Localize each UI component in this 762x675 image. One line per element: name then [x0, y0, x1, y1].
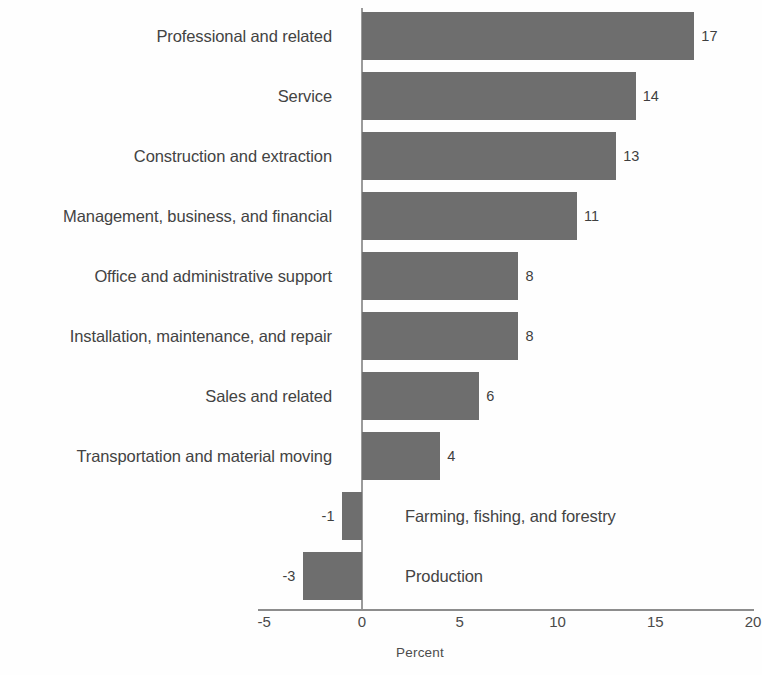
x-axis-tick: -5: [258, 613, 271, 630]
bar-row: Production-3: [0, 546, 762, 606]
category-label: Farming, fishing, and forestry: [405, 486, 616, 546]
bar-value-label: -1: [322, 486, 335, 546]
bar-value-label: 4: [447, 426, 455, 486]
bar-row: Professional and related17: [0, 6, 762, 66]
x-axis-tick: 5: [456, 613, 464, 630]
bar-value-label: 8: [525, 246, 533, 306]
category-label: Professional and related: [156, 6, 332, 66]
x-axis-tick: 20: [745, 613, 762, 630]
x-axis-line: [258, 609, 754, 611]
bar: [342, 492, 362, 540]
bar: [362, 132, 616, 180]
bar: [362, 12, 694, 60]
bar-row: Management, business, and financial11: [0, 186, 762, 246]
category-label: Transportation and material moving: [76, 426, 332, 486]
bar-row: Office and administrative support8: [0, 246, 762, 306]
bar-value-label: 8: [525, 306, 533, 366]
bar-row: Transportation and material moving4: [0, 426, 762, 486]
x-axis-tick: 10: [549, 613, 566, 630]
bar-value-label: 17: [701, 6, 717, 66]
category-label: Installation, maintenance, and repair: [70, 306, 332, 366]
x-axis-tick-labels: -505101520: [0, 613, 762, 643]
bar: [303, 552, 362, 600]
bar: [362, 432, 440, 480]
bar-row: Installation, maintenance, and repair8: [0, 306, 762, 366]
bar-chart: Professional and related17Service14Const…: [0, 0, 762, 675]
category-label: Construction and extraction: [134, 126, 332, 186]
x-axis-tick: 0: [358, 613, 366, 630]
bar-row: Farming, fishing, and forestry-1: [0, 486, 762, 546]
bar: [362, 72, 636, 120]
bar-value-label: -3: [282, 546, 295, 606]
bar-value-label: 14: [643, 66, 659, 126]
plot-area: Professional and related17Service14Const…: [0, 0, 762, 612]
bar-value-label: 11: [584, 186, 599, 246]
bar: [362, 312, 518, 360]
bar: [362, 192, 577, 240]
category-label: Production: [405, 546, 483, 606]
bar-row: Construction and extraction13: [0, 126, 762, 186]
bar-value-label: 6: [486, 366, 494, 426]
category-label: Sales and related: [205, 366, 332, 426]
category-label: Service: [278, 66, 332, 126]
bar-value-label: 13: [623, 126, 639, 186]
x-axis-title: Percent: [0, 645, 762, 660]
bar-row: Sales and related6: [0, 366, 762, 426]
bar: [362, 252, 518, 300]
x-axis-title-text: Percent: [396, 645, 444, 660]
bar-row: Service14: [0, 66, 762, 126]
category-label: Office and administrative support: [94, 246, 332, 306]
x-axis-tick: 15: [647, 613, 664, 630]
bar: [362, 372, 479, 420]
category-label: Management, business, and financial: [63, 186, 332, 246]
